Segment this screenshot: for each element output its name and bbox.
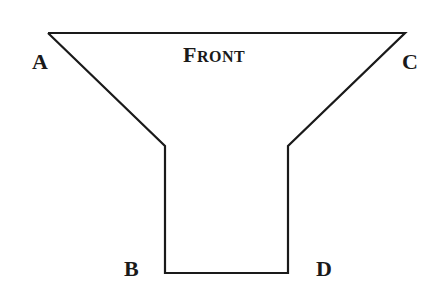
vertex-label-d: D	[316, 258, 332, 280]
vertex-label-c: C	[402, 51, 418, 73]
vertex-label-a: A	[32, 51, 48, 73]
front-label: FRONT	[183, 44, 245, 66]
front-label-rest: RONT	[197, 48, 245, 65]
vertex-label-b: B	[124, 258, 139, 280]
front-label-initial: F	[183, 42, 197, 67]
